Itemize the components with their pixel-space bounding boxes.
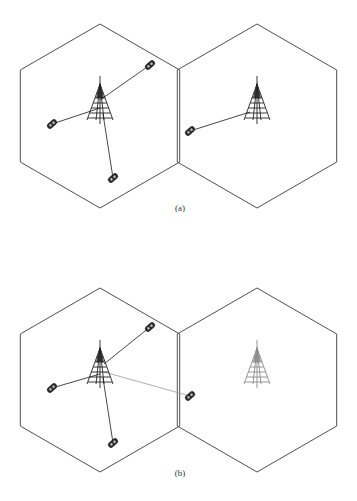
radio-link bbox=[100, 65, 150, 100]
mobile-phone-icon bbox=[184, 125, 196, 137]
mobile-phone-icon bbox=[184, 390, 196, 402]
cell-tower-icon bbox=[244, 76, 270, 124]
radio-link bbox=[103, 114, 113, 178]
cell-tower-icon bbox=[87, 76, 113, 124]
cell-tower-icon bbox=[244, 340, 270, 388]
mobile-phone-icon bbox=[144, 59, 156, 71]
radio-link bbox=[103, 378, 113, 443]
mobile-phone-icon bbox=[107, 172, 119, 184]
caption-b: (b) bbox=[175, 468, 186, 478]
panel-b bbox=[20, 288, 336, 472]
mobile-phone-icon bbox=[144, 321, 156, 333]
radio-link bbox=[52, 108, 100, 124]
cellular-diagram bbox=[0, 0, 357, 501]
mobile-phone-icon bbox=[46, 118, 58, 130]
mobile-phone-icon bbox=[46, 382, 58, 394]
caption-a: (a) bbox=[175, 203, 185, 213]
radio-link bbox=[104, 327, 150, 364]
radio-link bbox=[52, 374, 100, 388]
radio-link bbox=[190, 112, 250, 131]
panel-a bbox=[20, 24, 336, 208]
cell-tower-icon bbox=[87, 340, 113, 388]
mobile-phone-icon bbox=[107, 437, 119, 449]
